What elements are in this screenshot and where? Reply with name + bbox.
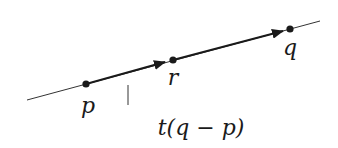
label-q: q xyxy=(283,35,297,60)
point-p xyxy=(82,80,89,87)
vector-p-to-r xyxy=(86,62,165,84)
diagram-canvas: p r q t(q − p) xyxy=(0,0,338,148)
annotation-t-q-minus-p: t(q − p) xyxy=(158,115,245,140)
point-q xyxy=(286,25,293,32)
label-r: r xyxy=(168,65,180,90)
point-r xyxy=(169,56,176,63)
label-p: p xyxy=(81,93,95,118)
vector-r-to-q xyxy=(173,31,283,60)
